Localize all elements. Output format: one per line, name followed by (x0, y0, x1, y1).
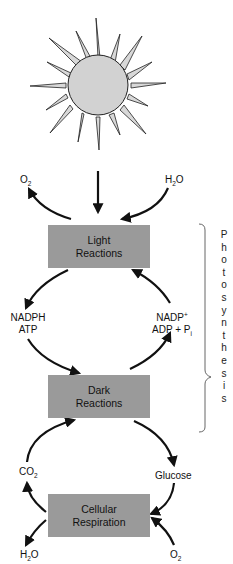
cellular-respiration-line1: Cellular (81, 503, 117, 516)
dark-reactions-line2: Reactions (76, 397, 123, 410)
nadph-atp-label: NADPH ATP (6, 312, 50, 336)
nadph-label: NADPH (6, 312, 50, 324)
adp-pi-label: ADP + Pi (146, 324, 198, 336)
sun-icon (30, 18, 166, 150)
light-reactions-line2: Reactions (76, 247, 123, 260)
photosynthesis-bracket-label: P h o t o s y n t h e s i s (218, 229, 230, 405)
nadp-label: NADP+ (146, 312, 198, 324)
dark-reactions-line1: Dark (88, 384, 110, 397)
light-reactions-line1: Light (88, 234, 111, 247)
cellular-respiration-box: Cellular Respiration (48, 494, 150, 537)
atp-label: ATP (6, 324, 50, 336)
glucose-label: Glucose (155, 470, 192, 482)
h2o-bottom-label: H2O (20, 549, 39, 561)
dark-reactions-box: Dark Reactions (48, 375, 150, 418)
diagram-canvas (0, 0, 233, 564)
h2o-top-label: H2O (165, 174, 184, 186)
co2-label: CO2 (19, 466, 38, 478)
o2-top-label: O2 (20, 174, 31, 186)
cellular-respiration-line2: Respiration (72, 516, 125, 529)
nadp-adp-label: NADP+ ADP + Pi (146, 312, 198, 336)
light-reactions-box: Light Reactions (48, 225, 150, 268)
o2-bottom-label: O2 (170, 549, 181, 561)
bracket (199, 224, 211, 432)
